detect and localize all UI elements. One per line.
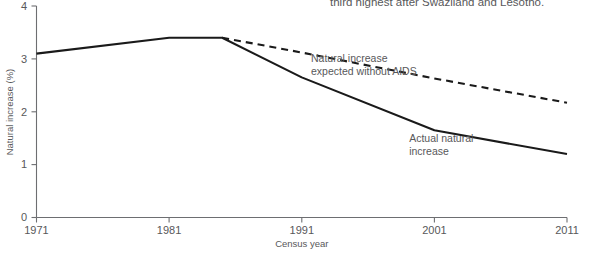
y-tick-label-1: 1	[21, 158, 27, 170]
y-axis-title: Natural increase (%)	[4, 69, 15, 156]
x-tick-label-2001: 2001	[422, 224, 446, 236]
y-tick-label-2: 2	[21, 106, 27, 118]
annotation-actual-line2: increase	[409, 145, 449, 157]
annotation-actual-line1: Actual natural	[409, 132, 473, 144]
x-tick-label-2011: 2011	[555, 224, 579, 236]
x-tick-label-1971: 1971	[24, 224, 48, 236]
y-tick-label-0: 0	[21, 211, 27, 223]
y-tick-marks	[32, 6, 37, 218]
line-chart: 0 1 2 3 4 1971 1981 1991 2001 2011 Censu…	[0, 0, 596, 258]
series-actual-natural-increase	[37, 38, 568, 154]
y-tick-label-3: 3	[21, 53, 27, 65]
x-axis-title: Census year	[275, 238, 328, 249]
annotation-expected-line1: Natural increase	[311, 52, 388, 64]
x-tick-label-1991: 1991	[290, 224, 314, 236]
x-tick-marks	[37, 218, 568, 223]
figure-natural-increase: third highest after Swaziland and Lesoth…	[0, 0, 596, 258]
x-tick-label-1981: 1981	[157, 224, 181, 236]
y-tick-label-4: 4	[21, 0, 27, 12]
annotation-expected-line2: expected without AIDS	[311, 65, 417, 77]
